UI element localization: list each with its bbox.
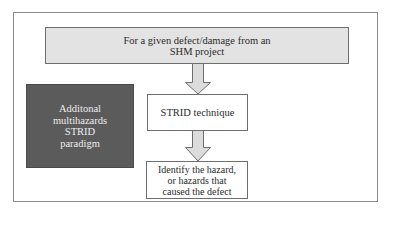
arrow-down-icon xyxy=(183,130,213,162)
multihazard-paradigm-box: Additonal multihazards STRID paradigm xyxy=(26,84,134,168)
strid-technique-label: STRID technique xyxy=(161,107,235,118)
strid-technique-box: STRID technique xyxy=(147,94,248,131)
input-defect-box: For a given defect/damage from an SHM pr… xyxy=(45,27,349,64)
input-defect-label: For a given defect/damage from an SHM pr… xyxy=(123,35,270,57)
identify-hazard-box: Identify the hazard, or hazards that cau… xyxy=(146,161,248,199)
arrow-down-icon xyxy=(183,63,213,95)
multihazard-paradigm-label: Additonal multihazards STRID paradigm xyxy=(53,103,107,149)
identify-hazard-label: Identify the hazard, or hazards that cau… xyxy=(158,164,236,197)
